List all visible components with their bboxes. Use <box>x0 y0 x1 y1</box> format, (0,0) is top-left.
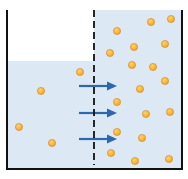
osmosis-diagram <box>0 0 188 179</box>
solute-particle <box>37 87 44 94</box>
solute-particle <box>166 108 173 115</box>
solute-particle <box>149 63 156 70</box>
solute-particle <box>131 157 138 164</box>
solute-particle <box>76 68 83 75</box>
solute-particle <box>142 110 149 117</box>
solute-particle <box>130 43 137 50</box>
solute-particle <box>48 139 55 146</box>
solute-particle <box>167 15 174 22</box>
solute-particle <box>165 155 172 162</box>
solute-particle <box>113 128 120 135</box>
solute-particle <box>136 85 143 92</box>
left-water <box>7 61 94 169</box>
solute-particle <box>128 61 135 68</box>
solute-particle <box>161 77 168 84</box>
solute-particle <box>15 123 22 130</box>
solute-particle <box>147 18 154 25</box>
solute-particle <box>161 40 168 47</box>
solute-particle <box>106 49 113 56</box>
solute-particle <box>138 134 145 141</box>
solute-particle <box>113 98 120 105</box>
solute-particle <box>107 149 114 156</box>
solute-particle <box>113 27 120 34</box>
